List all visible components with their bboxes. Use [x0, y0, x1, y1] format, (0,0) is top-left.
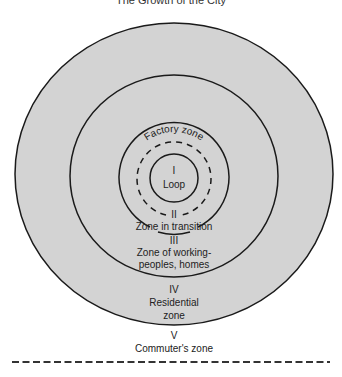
zone-v-numeral: V — [171, 330, 178, 341]
zone-i-numeral: I — [173, 165, 176, 176]
zone-iii-name-line1: Zone of working- — [137, 247, 211, 258]
zone-iv-numeral: IV — [169, 284, 179, 295]
zone-v-name: Commuter's zone — [135, 343, 213, 354]
zone-iii-numeral: III — [170, 235, 178, 246]
zone-iv-name-line1: Residential — [149, 297, 198, 308]
zone-i-name: Loop — [163, 179, 186, 190]
zone-iii-name-line2: peoples, homes — [139, 259, 210, 270]
zone-ii-numeral: II — [171, 209, 177, 220]
zone-iv-name-line2: zone — [163, 310, 185, 321]
zone-ii-name: Zone in transition — [136, 221, 213, 232]
concentric-zone-diagram: Factory zone I Loop II Zone in transitio… — [0, 0, 342, 377]
